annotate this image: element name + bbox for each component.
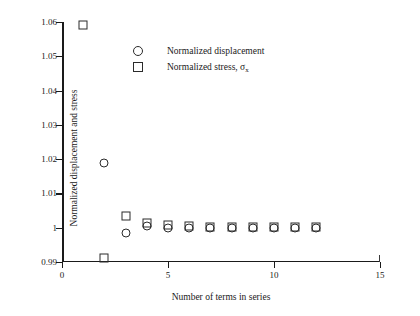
y-axis-line (62, 22, 64, 262)
legend-label: Normalized displacement (167, 46, 264, 56)
x-tick-mark (62, 262, 63, 268)
x-tick-label: 15 (376, 270, 385, 280)
y-tick-label: 0.99 (41, 257, 57, 267)
data-point-square (79, 21, 88, 30)
data-point-square (142, 218, 151, 227)
data-point-circle (121, 228, 130, 237)
legend-label: Normalized stress, σx (167, 62, 249, 72)
x-tick-mark (274, 262, 275, 268)
x-tick-label: 5 (166, 270, 171, 280)
data-point-square (185, 222, 194, 231)
y-tick-label: 1.06 (41, 17, 57, 27)
x-tick-mark (380, 262, 381, 268)
plot-area: 0.9911.011.021.031.041.051.06 051015 (62, 22, 380, 262)
legend-marker-circle (133, 46, 143, 56)
x-axis-line (62, 261, 380, 263)
x-tick-label: 0 (60, 270, 65, 280)
data-point-square (227, 223, 236, 232)
figure-scatter-convergence: Normalized displacement and stress Numbe… (0, 0, 420, 316)
y-tick-label: 1 (53, 223, 58, 233)
legend-label-subscript: x (245, 66, 249, 74)
data-point-square (248, 223, 257, 232)
y-tick-label: 1.03 (41, 120, 57, 130)
y-tick-label: 1.04 (41, 86, 57, 96)
data-point-circle (100, 158, 109, 167)
data-point-square (270, 223, 279, 232)
legend-marker-square (133, 62, 143, 72)
x-axis-title: Number of terms in series (62, 292, 380, 302)
data-point-square (164, 220, 173, 229)
data-point-square (206, 222, 215, 231)
data-point-square (312, 223, 321, 232)
y-tick-label: 1.05 (41, 51, 57, 61)
y-tick-label: 1.02 (41, 154, 57, 164)
x-axis-right-tick (379, 255, 380, 262)
data-point-square (100, 253, 109, 262)
x-tick-mark (168, 262, 169, 268)
y-tick-label: 1.01 (41, 188, 57, 198)
x-tick-label: 10 (270, 270, 279, 280)
data-point-square (121, 211, 130, 220)
data-point-square (291, 223, 300, 232)
